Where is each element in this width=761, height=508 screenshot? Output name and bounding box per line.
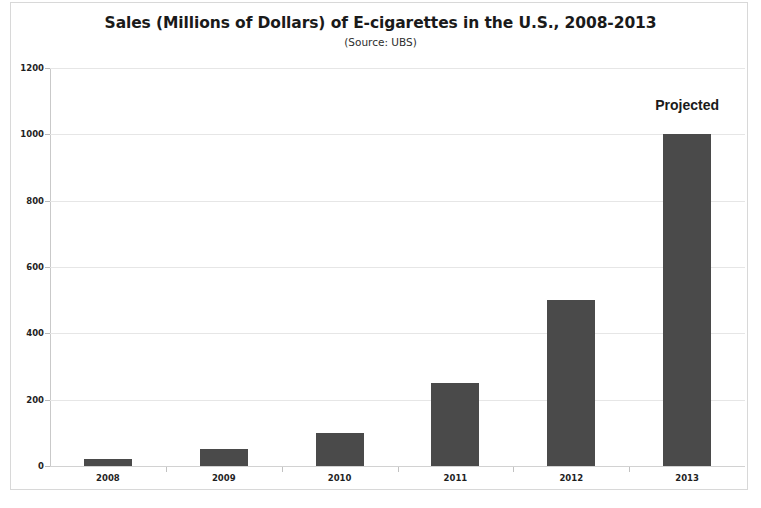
y-axis-tick-labels: 020040060080010001200: [0, 68, 44, 466]
y-tick-label-0: 0: [38, 461, 44, 471]
bar-2012: [547, 300, 595, 466]
y-tick-label-800: 800: [26, 196, 44, 206]
x-axis-tick-labels: 200820092010201120122013: [50, 473, 745, 491]
x-separator-tick-3: [513, 467, 514, 472]
y-tick-label-600: 600: [26, 262, 44, 272]
x-tick-label-2008: 2008: [96, 473, 120, 483]
bar-2010: [316, 433, 364, 466]
y-tick-label-400: 400: [26, 328, 44, 338]
y-tick-label-1000: 1000: [20, 129, 44, 139]
x-tick-label-2009: 2009: [212, 473, 236, 483]
bar-2013: [663, 134, 711, 466]
bar-2011: [431, 383, 479, 466]
x-separator-tick-0: [166, 467, 167, 472]
x-separator-tick-2: [398, 467, 399, 472]
bar-2009: [200, 449, 248, 466]
y-tick-label-200: 200: [26, 395, 44, 405]
y-tick-0: [45, 466, 50, 467]
bar-2008: [84, 459, 132, 466]
x-tick-label-2011: 2011: [444, 473, 468, 483]
x-tick-label-2013: 2013: [675, 473, 699, 483]
chart-figure: Sales (Millions of Dollars) of E-cigaret…: [0, 0, 761, 508]
x-tick-label-2010: 2010: [328, 473, 352, 483]
x-separator-tick-1: [282, 467, 283, 472]
annotation-projected: Projected: [655, 97, 719, 113]
x-separator-tick-4: [629, 467, 630, 472]
x-tick-label-2012: 2012: [559, 473, 583, 483]
y-tick-label-1200: 1200: [20, 63, 44, 73]
bar-series: [50, 68, 745, 466]
